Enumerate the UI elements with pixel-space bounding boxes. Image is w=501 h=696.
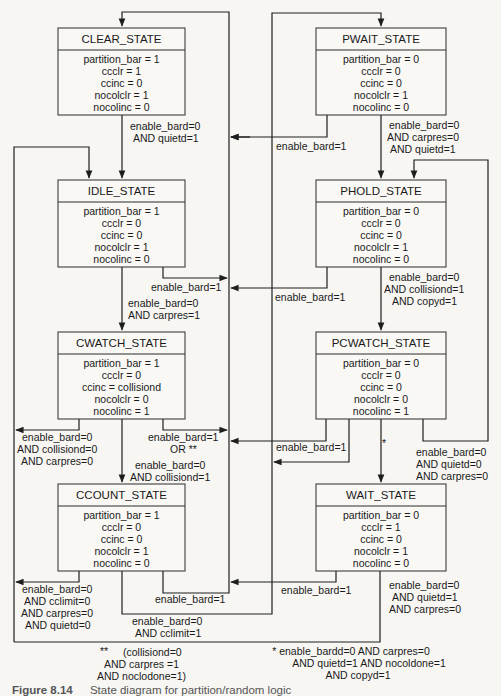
state-var: nocolclr = 1 bbox=[95, 89, 149, 101]
state-wait: WAIT_STATE partition_bar = 0 ccclr = 1 c… bbox=[316, 484, 446, 571]
transition-label: enable_bard=0 bbox=[128, 297, 199, 309]
state-clear: CLEAR_STATE partition_bar = 1 ccclr = 1 … bbox=[58, 28, 185, 115]
state-var: nocolinc = 0 bbox=[353, 557, 409, 569]
state-title: PWAIT_STATE bbox=[342, 33, 420, 45]
transition-label: enable_bard=1 bbox=[276, 441, 347, 453]
state-var: nocolclr = 0 bbox=[95, 393, 149, 405]
state-var: nocolclr = 1 bbox=[95, 241, 149, 253]
transition-label: enable_bard=0 bbox=[389, 119, 460, 131]
transition-label: AND cclimit=1 bbox=[135, 627, 201, 639]
state-var: ccclr = 0 bbox=[102, 521, 142, 533]
state-var: ccinc = 0 bbox=[101, 229, 143, 241]
state-title: WAIT_STATE bbox=[346, 489, 416, 501]
state-var: ccinc = collisiond bbox=[82, 381, 161, 393]
state-title: PHOLD_STATE bbox=[340, 185, 422, 197]
state-var: partition_bar = 1 bbox=[83, 205, 159, 217]
wire-pwait-to-bus bbox=[231, 115, 327, 137]
transition-label: enable_bard=0 bbox=[416, 446, 487, 458]
transition-label: AND collisiond=1 bbox=[130, 471, 210, 483]
state-var: ccclr = 0 bbox=[361, 65, 401, 77]
state-var: ccinc = 0 bbox=[360, 381, 402, 393]
transition-label: enable_bard=0 bbox=[389, 579, 460, 591]
state-cwatch: CWATCH_STATE partition_bar = 1 ccclr = 0… bbox=[58, 332, 185, 419]
footnote-line: (collisiond=0 bbox=[123, 646, 182, 658]
state-var: partition_bar = 1 bbox=[83, 53, 159, 65]
state-var: ccclr = 0 bbox=[361, 369, 401, 381]
footnote-line: AND noclodone=1) bbox=[97, 670, 186, 682]
transition-label: AND quietd=1 bbox=[133, 132, 199, 144]
state-title: CWATCH_STATE bbox=[76, 337, 167, 349]
transition-label: AND collisiond=1 bbox=[384, 283, 464, 295]
transition-label: AND copyd=1 bbox=[392, 295, 457, 307]
state-var: nocolclr = 1 bbox=[354, 241, 408, 253]
state-pcwatch: PCWATCH_STATE partition_bar = 0 ccclr = … bbox=[316, 332, 446, 419]
transition-label: OR ** bbox=[170, 443, 197, 455]
wire-ccount-to-left bbox=[16, 571, 79, 582]
transition-label: enable_bard=1 bbox=[148, 431, 219, 443]
transition-label: AND cclimit=0 bbox=[24, 595, 90, 607]
state-pwait: PWAIT_STATE partition_bar = 0 ccclr = 0 … bbox=[316, 28, 446, 115]
state-var: partition_bar = 0 bbox=[343, 509, 419, 521]
wire-idle-to-bus bbox=[163, 267, 227, 278]
transition-label: enable_bard=1 bbox=[275, 291, 346, 303]
state-var: partition_bar = 0 bbox=[343, 357, 419, 369]
transition-label: AND quietd=1 bbox=[390, 143, 456, 155]
figure-number: Figure 8.14 bbox=[12, 684, 73, 696]
state-var: partition_bar = 1 bbox=[83, 509, 159, 521]
state-var: nocolclr = 0 bbox=[354, 393, 408, 405]
state-var: ccclr = 0 bbox=[361, 217, 401, 229]
transition-label: AND quietd=1 bbox=[392, 591, 458, 603]
transition-label: AND carpres=0 bbox=[387, 131, 459, 143]
footnote-line: AND copyd=1 bbox=[325, 669, 390, 681]
footnote-line: AND quietd=1 AND nocoldone=1 bbox=[292, 657, 446, 669]
transition-label: enable_bard=0 bbox=[132, 615, 203, 627]
transition-label: * bbox=[382, 437, 386, 449]
footnote-single-star: * enable_bardd=0 AND carpres=0 AND quiet… bbox=[272, 645, 446, 681]
footnote-marker: ** bbox=[100, 645, 108, 657]
state-var: ccclr = 1 bbox=[102, 65, 142, 77]
transition-label: AND quietd=0 bbox=[25, 619, 91, 631]
wire-cwatch-to-bus bbox=[163, 419, 227, 430]
transition-label: AND carpres=0 bbox=[389, 603, 461, 615]
state-var: nocolinc = 0 bbox=[353, 253, 409, 265]
state-var: partition_bar = 0 bbox=[343, 53, 419, 65]
transition-label: AND collisiond=0 bbox=[17, 443, 97, 455]
state-var: ccinc = 0 bbox=[101, 77, 143, 89]
figure-text: State diagram for partition/random logic bbox=[90, 684, 291, 696]
state-title: IDLE_STATE bbox=[88, 185, 156, 197]
transition-label: enable_bard=0 bbox=[22, 583, 93, 595]
state-var: ccinc = 0 bbox=[360, 77, 402, 89]
state-var: nocolclr = 1 bbox=[95, 545, 149, 557]
wire-phold-to-bus bbox=[231, 267, 327, 288]
state-var: ccinc = 0 bbox=[360, 229, 402, 241]
state-var: ccclr = 0 bbox=[102, 369, 142, 381]
footnote-line: AND carpres =1 bbox=[104, 658, 179, 670]
state-var: ccinc = 0 bbox=[101, 533, 143, 545]
transition-label: AND carpres=0 bbox=[416, 470, 488, 482]
state-title: PCWATCH_STATE bbox=[332, 337, 431, 349]
state-var: nocolclr = 1 bbox=[354, 545, 408, 557]
transition-label: AND carpres=0 bbox=[21, 607, 93, 619]
transition-label: enable_bard=1 bbox=[155, 593, 226, 605]
state-var: ccclr = 0 bbox=[102, 217, 142, 229]
wire-pcwatch-to-bus-a bbox=[231, 419, 326, 441]
state-idle: IDLE_STATE partition_bar = 1 ccclr = 0 c… bbox=[58, 180, 185, 267]
state-var: partition_bar = 0 bbox=[343, 205, 419, 217]
transition-label: AND quietd=0 bbox=[416, 458, 482, 470]
state-var: nocolclr = 1 bbox=[354, 89, 408, 101]
state-var: nocolinc = 0 bbox=[93, 253, 149, 265]
transition-label: enable_bard=1 bbox=[281, 584, 352, 596]
state-var: ccclr = 1 bbox=[361, 521, 401, 533]
transition-label: enable_bard=0 bbox=[130, 120, 201, 132]
state-var: nocolinc = 0 bbox=[93, 101, 149, 113]
state-var: ccinc = 0 bbox=[360, 533, 402, 545]
state-title: CCOUNT_STATE bbox=[76, 489, 167, 501]
state-var: partition_bar = 1 bbox=[83, 357, 159, 369]
state-var: nocolinc = 0 bbox=[93, 557, 149, 569]
state-var: nocolinc = 0 bbox=[353, 101, 409, 113]
transition-label: AND carpres=1 bbox=[128, 309, 200, 321]
state-phold: PHOLD_STATE partition_bar = 0 ccclr = 0 … bbox=[316, 180, 446, 267]
transition-label: enable_bard=1 bbox=[276, 140, 347, 152]
state-title: CLEAR_STATE bbox=[81, 33, 161, 45]
